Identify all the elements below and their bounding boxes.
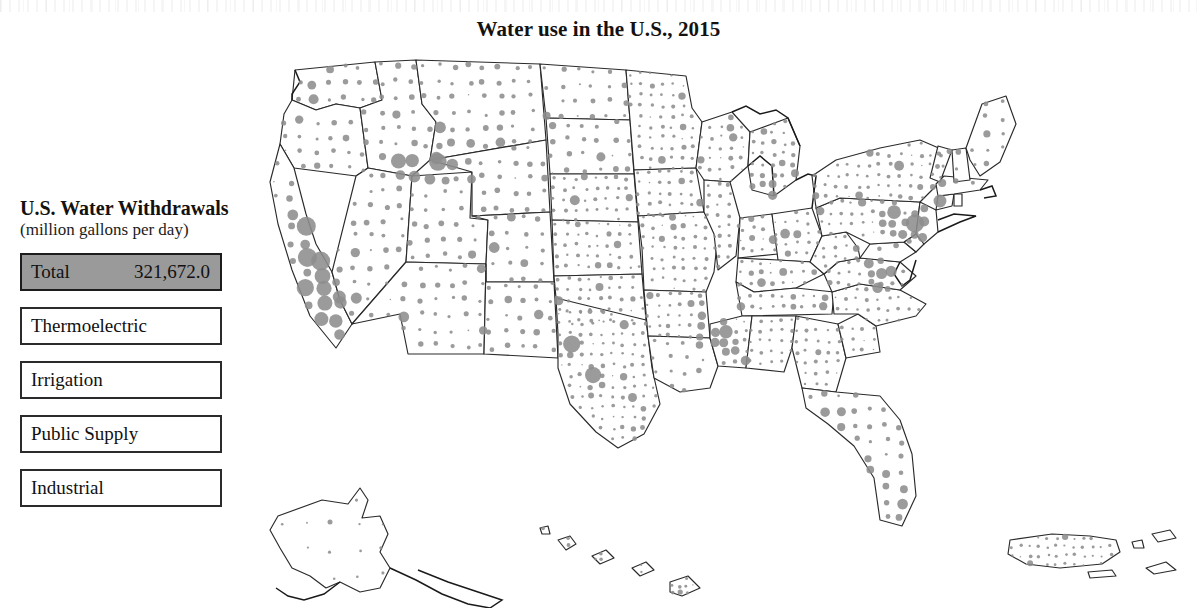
- county-dot: [645, 314, 649, 318]
- county-dot: [751, 260, 754, 263]
- county-dot: [469, 81, 474, 86]
- county-dot: [837, 175, 840, 178]
- county-dot: [574, 218, 578, 222]
- county-dot: [838, 272, 841, 275]
- county-dot: [649, 182, 651, 184]
- county-dot: [482, 93, 487, 98]
- county-dot: [505, 343, 511, 349]
- legend-row-irrigation[interactable]: Irrigation: [20, 361, 222, 399]
- county-dot: [628, 393, 637, 402]
- county-dot: [309, 94, 319, 104]
- legend-row-thermoelectric[interactable]: Thermoelectric: [20, 307, 222, 345]
- county-dot: [653, 267, 656, 270]
- county-dot: [718, 234, 722, 238]
- county-dot: [1054, 544, 1057, 547]
- county-dot: [548, 153, 553, 158]
- county-dot: [986, 149, 989, 152]
- county-dot: [790, 340, 793, 343]
- county-dot: [580, 323, 584, 327]
- county-dot: [650, 83, 655, 88]
- county-dot: [505, 314, 508, 317]
- county-dot: [608, 70, 612, 74]
- county-dot: [644, 384, 647, 387]
- county-dot: [608, 276, 613, 281]
- county-dot: [623, 114, 626, 117]
- county-dot: [911, 155, 912, 156]
- county-dot: [396, 170, 406, 180]
- county-dot: [845, 308, 847, 310]
- county-dot: [640, 296, 643, 299]
- county-dot: [643, 343, 646, 346]
- county-dot: [468, 94, 469, 95]
- county-dot: [433, 312, 437, 316]
- county-dot: [779, 268, 787, 276]
- county-dot: [876, 162, 880, 166]
- county-dot: [296, 97, 301, 102]
- county-dot: [567, 151, 572, 156]
- county-dot: [641, 406, 647, 412]
- county-dot: [907, 239, 912, 244]
- county-dot: [601, 310, 605, 314]
- county-dot: [421, 93, 426, 98]
- county-dot: [659, 236, 665, 242]
- county-dot: [1029, 545, 1031, 547]
- county-dot: [331, 148, 336, 153]
- legend-row-public-supply[interactable]: Public Supply: [20, 415, 222, 453]
- state-hi-island-4: [540, 526, 550, 534]
- county-dot: [897, 499, 908, 510]
- county-dot: [953, 178, 958, 183]
- county-dot: [718, 168, 721, 171]
- county-dot: [648, 191, 651, 194]
- county-dot: [396, 186, 402, 192]
- county-dot: [490, 347, 495, 352]
- county-dot: [670, 155, 673, 158]
- county-dot: [370, 190, 373, 193]
- county-dot: [540, 162, 545, 167]
- county-dot: [379, 546, 382, 549]
- county-dot: [358, 523, 360, 525]
- county-dot: [651, 257, 654, 260]
- county-dot: [683, 372, 687, 376]
- county-dot: [538, 278, 542, 282]
- county-dot: [668, 192, 672, 196]
- county-dot: [774, 233, 777, 236]
- county-dot: [885, 286, 891, 292]
- county-dot: [494, 64, 500, 70]
- county-dot: [453, 65, 458, 70]
- county-dot: [790, 270, 793, 273]
- county-dot: [1084, 555, 1086, 557]
- county-dot: [317, 296, 332, 311]
- county-dot: [411, 64, 417, 70]
- county-dot: [471, 224, 474, 227]
- county-dot: [286, 195, 293, 202]
- legend-row-total[interactable]: Total321,672.0: [20, 253, 222, 291]
- county-dot: [563, 335, 580, 352]
- county-dot: [552, 172, 553, 173]
- county-dot: [326, 80, 331, 85]
- county-dot: [566, 309, 569, 312]
- county-dot: [826, 370, 830, 374]
- legend-row-industrial[interactable]: Industrial: [20, 469, 222, 507]
- county-dot: [619, 308, 623, 312]
- county-dot: [612, 320, 615, 323]
- county-dot: [769, 180, 777, 188]
- county-dot: [467, 110, 471, 114]
- county-dot: [620, 425, 624, 429]
- county-dot: [851, 328, 854, 331]
- county-dot: [578, 333, 582, 337]
- county-dot: [638, 103, 642, 107]
- us-map-svg[interactable]: [240, 48, 1197, 608]
- county-dot: [630, 310, 632, 312]
- county-dot: [420, 283, 426, 289]
- map-canvas[interactable]: [240, 48, 1197, 608]
- county-dot: [942, 165, 945, 168]
- county-dot: [316, 281, 331, 296]
- county-dot: [657, 316, 660, 319]
- county-dot: [693, 245, 697, 249]
- county-dot: [856, 288, 859, 291]
- county-dot: [598, 319, 600, 321]
- county-dot: [868, 270, 875, 277]
- county-dot: [780, 229, 790, 239]
- county-dot: [590, 114, 595, 119]
- county-dot: [348, 165, 351, 168]
